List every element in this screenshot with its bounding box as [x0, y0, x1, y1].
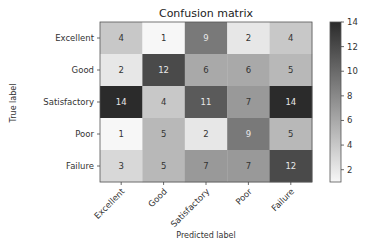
cell-value-label: 12 [158, 65, 169, 75]
x-tick-label: Failure [269, 186, 296, 213]
cell-value-label: 11 [201, 97, 212, 107]
x-axis-label: Predicted label [176, 231, 235, 240]
colorbar-tick-label: 8 [347, 91, 352, 101]
cell-value-label: 7 [246, 97, 251, 107]
colorbar-tick-label: 6 [347, 115, 352, 125]
y-tick-label: Excellent [55, 33, 94, 43]
x-tick-label: Excellent [92, 186, 127, 221]
x-tick-label: Good [146, 186, 169, 209]
cell-value-label: 5 [288, 129, 293, 139]
cell-value-label: 9 [203, 33, 208, 43]
colorbar-tick-label: 14 [347, 17, 358, 27]
cell-value-label: 4 [118, 33, 123, 43]
cell-value-label: 7 [246, 161, 251, 171]
cell-value-label: 1 [118, 129, 123, 139]
colorbar-tick-label: 4 [347, 140, 352, 150]
colorbar-tick-label: 2 [347, 165, 352, 175]
x-tick-label: Poor [234, 186, 255, 207]
cell-value-label: 6 [246, 65, 251, 75]
confusion-matrix-chart: Confusion matrix 41924212665144117141529… [0, 0, 367, 248]
colorbar [330, 22, 341, 182]
cell-value-label: 4 [288, 33, 293, 43]
cell-value-label: 5 [161, 129, 166, 139]
y-tick-label: Good [72, 65, 94, 75]
y-axis-ticks: ExcellentGoodSatisfactoryPoorFailure [43, 33, 100, 171]
x-axis-ticks: ExcellentGoodSatisfactoryPoorFailure [92, 182, 296, 229]
cell-value-label: 7 [203, 161, 208, 171]
y-tick-label: Failure [66, 161, 94, 171]
colorbar-tick-label: 12 [347, 42, 358, 52]
cell-value-label: 5 [288, 65, 293, 75]
chart-title: Confusion matrix [159, 7, 254, 20]
cell-value-label: 1 [161, 33, 166, 43]
cell-value-label: 5 [161, 161, 166, 171]
cell-value-label: 2 [118, 65, 123, 75]
y-tick-label: Satisfactory [43, 97, 94, 107]
y-axis-label: True label [9, 84, 18, 124]
colorbar-ticks: 2468101214 [341, 17, 358, 175]
cell-value-label: 14 [116, 97, 127, 107]
cell-value-label: 2 [203, 129, 208, 139]
heatmap-cells: 419242126651441171415295357712 [100, 22, 312, 182]
cell-value-label: 14 [285, 97, 296, 107]
cell-value-label: 9 [246, 129, 251, 139]
x-tick-label: Satisfactory [169, 186, 212, 229]
cell-value-label: 4 [161, 97, 166, 107]
cell-value-label: 2 [246, 33, 251, 43]
colorbar-tick-label: 10 [347, 66, 358, 76]
y-tick-label: Poor [75, 129, 94, 139]
cell-value-label: 6 [203, 65, 208, 75]
cell-value-label: 12 [285, 161, 296, 171]
cell-value-label: 3 [118, 161, 123, 171]
